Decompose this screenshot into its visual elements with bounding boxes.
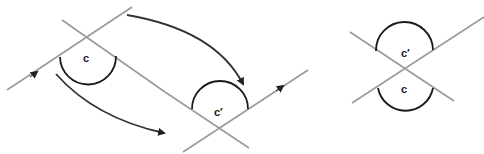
curved-arrow-bottom-icon bbox=[56, 74, 164, 133]
angle-label-c: c bbox=[83, 52, 89, 64]
parallel-line-2 bbox=[183, 70, 308, 152]
angle-label-bottom-c: c bbox=[401, 83, 407, 95]
angle-label-top-c-prime: c′ bbox=[401, 47, 410, 59]
left-figure: c bbox=[7, 7, 165, 92]
angle-label-c-prime: c′ bbox=[214, 106, 223, 118]
parallel-arrow-icon bbox=[276, 86, 283, 91]
transversal-segment-left bbox=[62, 20, 165, 92]
curved-arrow-top-icon bbox=[127, 15, 243, 84]
crossing-line-2 bbox=[352, 17, 484, 103]
corresponding-angles-diagram: c c′ c′ c bbox=[0, 0, 484, 154]
angle-arc-c-prime bbox=[192, 81, 248, 109]
middle-figure: c′ bbox=[165, 70, 308, 152]
transversal-segment-middle bbox=[165, 92, 249, 148]
right-figure: c′ c bbox=[350, 17, 484, 111]
